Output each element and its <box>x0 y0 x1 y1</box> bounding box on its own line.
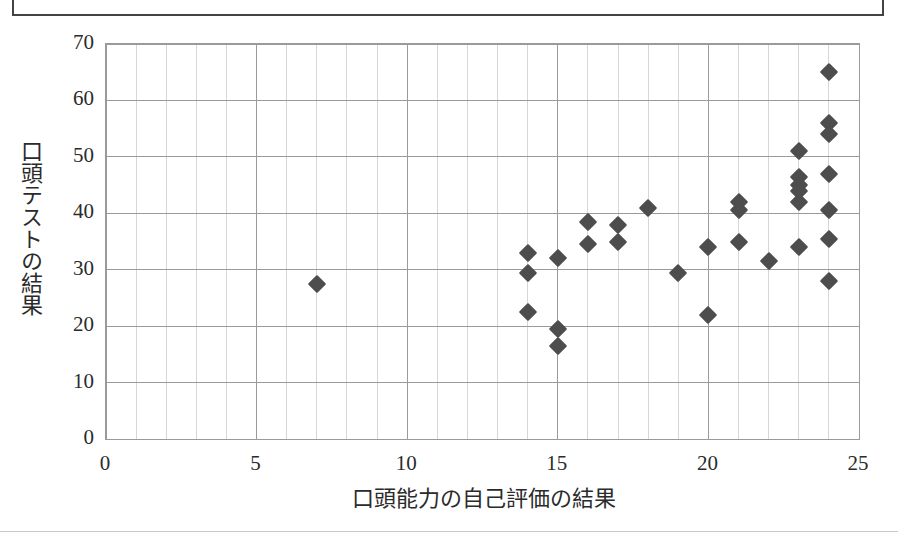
y-tick-label: 0 <box>84 427 95 448</box>
y-tick-label: 30 <box>73 258 94 279</box>
y-tick-label: 20 <box>73 314 94 335</box>
x-tick-label: 20 <box>697 453 718 474</box>
y-axis-tick-labels: 010203040506070 <box>46 43 94 440</box>
x-tick-label: 5 <box>250 453 261 474</box>
scatter-plot-figure: 口頭テストの結果 010203040506070 0510152025 口頭能力… <box>0 0 898 536</box>
x-axis-tick-labels: 0510152025 <box>105 453 860 481</box>
y-tick-label: 70 <box>73 32 94 53</box>
x-tick-label: 15 <box>546 453 567 474</box>
y-tick-label: 50 <box>73 145 94 166</box>
x-tick-label: 25 <box>848 453 869 474</box>
page-bottom-rule <box>0 531 898 532</box>
x-tick-label: 10 <box>396 453 417 474</box>
x-axis-title: 口頭能力の自己評価の結果 <box>0 487 898 511</box>
y-tick-label: 40 <box>73 201 94 222</box>
y-tick-label: 10 <box>73 371 94 392</box>
y-tick-label: 60 <box>73 88 94 109</box>
y-axis-title: 口頭テストの結果 <box>16 140 42 316</box>
plot-area <box>105 43 860 440</box>
x-tick-label: 0 <box>100 453 111 474</box>
